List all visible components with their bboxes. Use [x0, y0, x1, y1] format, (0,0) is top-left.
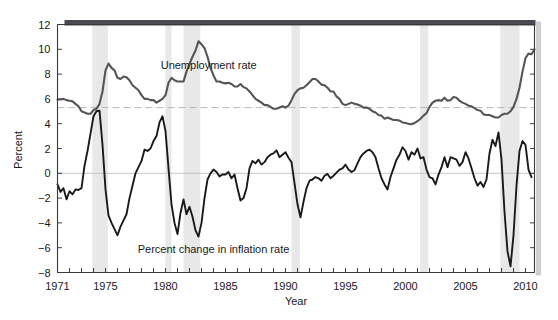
recession-band	[92, 25, 108, 273]
x-tick-label: 2010	[513, 280, 537, 292]
series-annotation: Unemployment rate	[161, 59, 257, 71]
x-tick-label: 2000	[393, 280, 417, 292]
y-tick-label: −8	[38, 267, 51, 279]
series-annotation: Percent change in inflation rate	[138, 243, 290, 255]
y-tick-label: 12	[38, 19, 50, 31]
y-tick-label: 8	[44, 68, 50, 80]
x-tick-label: 1995	[333, 280, 357, 292]
x-tick-label: 1975	[93, 280, 117, 292]
chart-svg: −8−6−4−202468101219711975198019851990199…	[0, 0, 558, 320]
y-tick-label: 4	[44, 118, 50, 130]
recession-band	[500, 25, 519, 273]
x-tick-label: 1990	[273, 280, 297, 292]
y-tick-label: 10	[38, 43, 50, 55]
y-tick-label: −4	[38, 217, 51, 229]
x-tick-label: 1985	[213, 280, 237, 292]
y-tick-label: −2	[38, 192, 51, 204]
frame-shadow	[536, 22, 541, 276]
y-tick-label: −6	[38, 242, 51, 254]
x-tick-label: 2005	[453, 280, 477, 292]
recession-band	[292, 25, 300, 273]
phillips-curve-figure: −8−6−4−202468101219711975198019851990199…	[0, 0, 558, 320]
y-tick-label: 2	[44, 143, 50, 155]
recession-bands	[92, 25, 519, 273]
y-axis-title: Percent	[12, 131, 24, 169]
y-tick-label: 6	[44, 93, 50, 105]
x-tick-label: 1980	[153, 280, 177, 292]
y-tick-label: 0	[44, 167, 50, 179]
x-tick-label: 1971	[45, 280, 69, 292]
x-axis-title: Year	[285, 295, 308, 307]
recession-band	[420, 25, 428, 273]
